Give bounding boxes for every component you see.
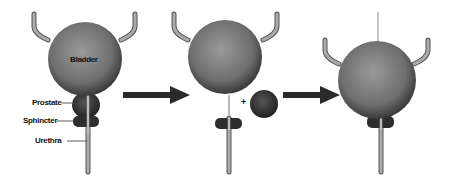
label-sphincter: Sphincter (23, 116, 57, 125)
ureter-right (121, 14, 135, 40)
ureter-left (325, 40, 339, 64)
label-urethra: Urethra (35, 136, 61, 145)
ureter-right (263, 14, 277, 40)
panel-normal (34, 14, 135, 172)
label-prostate: Prostate (32, 98, 62, 107)
prostatectomy-diagram (0, 0, 452, 188)
bladder (188, 20, 262, 94)
panel-removal (174, 14, 278, 172)
plus-sign: + (241, 97, 246, 107)
arrow-step-1 (123, 86, 190, 104)
ureter-right (414, 40, 428, 64)
panel-reconnected (325, 12, 428, 172)
arrow-step-2 (283, 86, 340, 104)
removed-prostate (250, 90, 278, 118)
bladder (338, 41, 416, 119)
label-bladder: Bladder (70, 55, 98, 64)
ureter-left (34, 14, 48, 40)
ureter-left (174, 14, 188, 40)
sphincter (73, 116, 99, 127)
